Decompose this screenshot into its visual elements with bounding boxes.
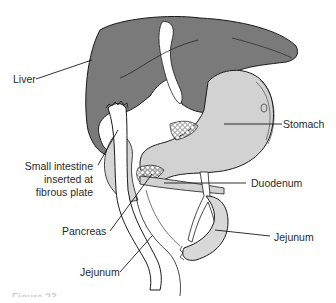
label-small-intestine-line2: inserted at (44, 173, 93, 185)
anatomy-drawing (0, 0, 336, 303)
label-small-intestine-line1: Small intestine (25, 160, 93, 172)
label-small-intestine-line3: fibrous plate (36, 186, 93, 198)
duodenum-shape (140, 176, 224, 194)
label-jejunum-right: Jejunum (274, 231, 314, 243)
label-stomach: Stomach (283, 118, 324, 130)
label-jejunum-left: Jejunum (80, 266, 120, 278)
label-pancreas: Pancreas (62, 225, 106, 237)
anatomy-figure: Liver Stomach Small intestine inserted a… (0, 0, 336, 303)
label-liver: Liver (13, 73, 36, 85)
label-duodenum: Duodenum (251, 177, 302, 189)
